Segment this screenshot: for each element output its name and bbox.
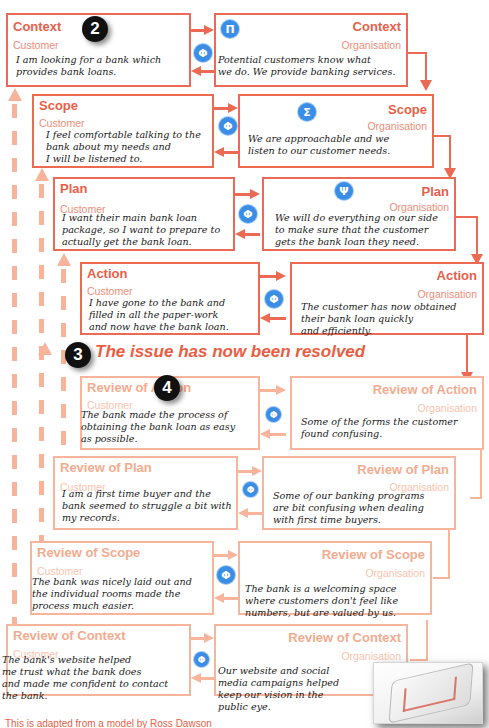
- cascade-line: [466, 335, 468, 375]
- arrow-to-customer: [260, 313, 286, 323]
- phi-badge: Φ: [265, 290, 283, 308]
- organisation-review-scope-box: Review of Scope Organisation The bank is…: [238, 541, 432, 615]
- arrow-to-customer: [238, 508, 262, 518]
- arrow-to-organisation: [260, 385, 286, 395]
- phi-badge: Φ: [243, 482, 258, 497]
- return-arrow-scope-shaft: [39, 184, 44, 544]
- box-title: Review of Scope: [37, 546, 140, 560]
- resolved-banner: The issue has now been resolved: [95, 342, 365, 362]
- device-illustration: [388, 662, 473, 724]
- cascade-line: [433, 577, 450, 579]
- box-text: I feel comfortable talking to the bank a…: [46, 129, 201, 165]
- sigma-badge: Σ: [298, 103, 316, 121]
- box-title: Action: [87, 267, 127, 281]
- box-title: Plan: [60, 182, 87, 196]
- box-title: Scope: [388, 103, 427, 117]
- box-text: I am a first time buyer and the bank see…: [62, 488, 232, 524]
- organisation-plan-box: Ψ Plan Organisation We will do everythin…: [262, 177, 456, 251]
- box-role: Customer: [39, 117, 85, 129]
- arrow-to-organisation: [235, 189, 260, 199]
- cascade-arrow-head: [420, 80, 432, 91]
- phi-badge: Φ: [219, 117, 237, 135]
- arrow-to-organisation: [238, 466, 262, 476]
- box-text: The customer has now obtained their bank…: [301, 301, 456, 337]
- cascade-line: [449, 135, 451, 170]
- box-role: Organisation: [341, 650, 401, 662]
- box-title: Plan: [422, 185, 449, 199]
- box-text: The bank is a welcoming space where cust…: [245, 583, 398, 619]
- box-text: I am looking for a bank which provides b…: [16, 54, 161, 78]
- box-text: We are approachable and we listen to our…: [248, 133, 390, 157]
- box-title: Context: [13, 20, 61, 34]
- cascade-line: [425, 52, 427, 80]
- box-title: Review of Scope: [322, 548, 425, 562]
- box-text: Potential customers know what we do. We …: [218, 54, 395, 78]
- organisation-action-box: Action Organisation The customer has now…: [290, 262, 484, 335]
- return-arrow-action-head: [38, 342, 52, 355]
- psi-badge: Ψ: [335, 182, 353, 200]
- arrow-to-organisation: [260, 271, 286, 281]
- box-title: Action: [437, 269, 477, 283]
- organisation-review-context-text: Our website and social media campaigns h…: [218, 665, 339, 713]
- cascade-line: [470, 497, 482, 499]
- organisation-review-action-box: Review of Action Organisation Some of th…: [290, 376, 484, 450]
- box-role: Organisation: [365, 567, 425, 579]
- customer-action-box: Action Customer I have gone to the bank …: [80, 262, 260, 335]
- return-arrow-plan-shaft: [61, 269, 66, 464]
- step-marker-3: 3: [65, 342, 91, 368]
- box-title: Scope: [39, 99, 78, 113]
- box-role: Customer: [13, 39, 59, 51]
- box-text: The bank was nicely laid out and the ind…: [32, 576, 192, 612]
- box-text: Some of our banking programs are bit con…: [273, 490, 424, 526]
- arrow-to-customer: [214, 593, 238, 603]
- phi-badge: Φ: [194, 652, 209, 667]
- box-role: Organisation: [417, 288, 477, 300]
- phi-badge: Φ: [266, 407, 281, 422]
- arrow-to-organisation: [191, 25, 214, 35]
- arrow-to-customer: [214, 147, 238, 157]
- box-title: Review of Context: [13, 629, 126, 643]
- device-photo-thumbnail: [373, 662, 483, 724]
- arrow-to-organisation: [214, 103, 238, 113]
- cascade-line: [448, 530, 450, 578]
- arrow-to-organisation: [191, 633, 214, 643]
- box-title: Review of Plan: [357, 463, 449, 477]
- customer-scope-box: Scope Customer I feel comfortable talkin…: [32, 94, 214, 168]
- customer-review-scope-box: Review of Scope Customer The bank was ni…: [30, 541, 214, 615]
- step-marker-4: 4: [154, 375, 180, 401]
- box-role: Organisation: [417, 402, 477, 414]
- box-text: I have gone to the bank and filled in al…: [89, 297, 229, 333]
- phi-badge: Φ: [194, 44, 212, 62]
- box-role: Customer: [87, 285, 133, 297]
- arrow-to-customer: [260, 429, 286, 439]
- return-arrow-context-shaft: [12, 104, 17, 638]
- cascade-line: [455, 216, 477, 218]
- cascade-line: [480, 450, 482, 498]
- box-title: Review of Action: [373, 383, 477, 397]
- arrow-to-customer: [191, 66, 214, 76]
- return-arrow-plan-head: [57, 253, 71, 266]
- box-role: Organisation: [367, 120, 427, 132]
- organisation-review-plan-box: Review of Plan Organisation Some of our …: [262, 456, 456, 530]
- customer-review-context-text: The bank's website helped me trust what …: [2, 654, 168, 702]
- phi-badge: Φ: [217, 566, 235, 584]
- return-arrow-scope-head: [35, 168, 49, 181]
- box-role: Organisation: [341, 39, 401, 51]
- box-text: We will do everything on our side to mak…: [275, 212, 438, 248]
- customer-review-plan-box: Review of Plan Customer I am a first tim…: [53, 456, 238, 530]
- box-title: Review of Plan: [60, 461, 152, 475]
- cascade-line: [476, 216, 478, 256]
- arrow-to-organisation: [214, 550, 238, 560]
- arrow-to-customer: [235, 229, 260, 239]
- box-text: I want their main bank loan package, so …: [62, 212, 220, 248]
- cascade-line: [426, 620, 428, 660]
- box-text: The bank made the process of obtaining t…: [81, 409, 235, 445]
- phi-badge: Φ: [239, 205, 257, 223]
- step-marker-2: 2: [82, 16, 108, 42]
- arrow-to-customer: [191, 673, 214, 683]
- box-title: Context: [353, 20, 401, 34]
- box-text: Some of the forms the customer found con…: [301, 416, 458, 440]
- cascade-line: [408, 52, 426, 54]
- customer-plan-box: Plan Customer I want their main bank loa…: [53, 177, 235, 251]
- pi-badge: Π: [221, 20, 239, 38]
